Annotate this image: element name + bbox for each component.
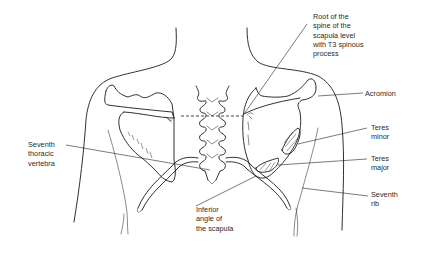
label-seventh-rib: Seventh rib xyxy=(371,190,398,209)
label-inferior-angle: Inferior angle of the scapula xyxy=(196,205,233,233)
label-acromion: Acromion xyxy=(365,89,396,98)
seventh-rib xyxy=(137,157,291,212)
label-teres-minor: Teres minor xyxy=(371,123,389,142)
label-teres-major: Teres major xyxy=(371,154,389,173)
label-seventh-thoracic-vertebra: Seventh thoracic vertebra xyxy=(28,140,55,168)
vertebral-column xyxy=(196,86,229,184)
left-scapula xyxy=(105,85,176,182)
label-root-of-spine: Root of the spine of the scapula level w… xyxy=(313,12,364,58)
